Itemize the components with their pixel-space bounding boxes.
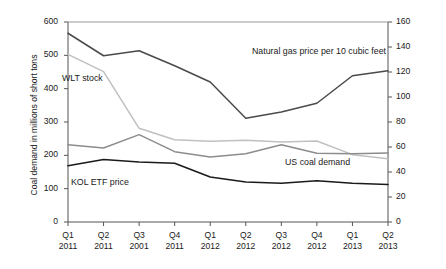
x-tick-year: 2012 bbox=[297, 241, 337, 252]
x-axis-tick-label: Q22011 bbox=[84, 230, 124, 252]
right-axis-tick-label: 140 bbox=[396, 41, 426, 51]
x-tick-year: 2011 bbox=[48, 241, 88, 252]
x-tick-quarter: Q2 bbox=[226, 230, 266, 241]
x-tick-quarter: Q2 bbox=[84, 230, 124, 241]
x-tick-year: 2011 bbox=[155, 241, 195, 252]
series-label-natural-gas-line1: Natural gas price per bbox=[252, 46, 334, 56]
x-axis-tick-label: Q32012 bbox=[261, 230, 301, 252]
x-axis-tick-label: Q32001 bbox=[119, 230, 159, 252]
left-axis-tick-label: 400 bbox=[28, 83, 58, 93]
x-axis-tick-label: Q22013 bbox=[368, 230, 408, 252]
right-axis-tick-label: 120 bbox=[396, 66, 426, 76]
right-axis-tick-label: 20 bbox=[396, 191, 426, 201]
x-axis-tick-label: Q42012 bbox=[297, 230, 337, 252]
x-tick-quarter: Q4 bbox=[155, 230, 195, 241]
chart-figure: Coal demand in millions of short tons Pr… bbox=[0, 0, 446, 269]
x-tick-year: 2012 bbox=[226, 241, 266, 252]
x-tick-year: 2013 bbox=[332, 241, 372, 252]
right-axis-ticks bbox=[388, 22, 392, 222]
right-axis-tick-label: 60 bbox=[396, 141, 426, 151]
right-axis-tick-label: 100 bbox=[396, 91, 426, 101]
x-tick-quarter: Q3 bbox=[119, 230, 159, 241]
x-tick-quarter: Q4 bbox=[297, 230, 337, 241]
left-axis-tick-label: 500 bbox=[28, 49, 58, 59]
left-axis-tick-label: 0 bbox=[28, 216, 58, 226]
left-axis-tick-label: 300 bbox=[28, 116, 58, 126]
x-axis-tick-label: Q42011 bbox=[155, 230, 195, 252]
x-tick-quarter: Q1 bbox=[190, 230, 230, 241]
right-axis-tick-label: 40 bbox=[396, 166, 426, 176]
x-tick-quarter: Q1 bbox=[332, 230, 372, 241]
x-axis-tick-label: Q12012 bbox=[190, 230, 230, 252]
x-tick-year: 2013 bbox=[368, 241, 408, 252]
series-label-natural-gas: Natural gas price per 10 cubic feet bbox=[252, 46, 386, 57]
x-tick-year: 2012 bbox=[261, 241, 301, 252]
x-tick-quarter: Q2 bbox=[368, 230, 408, 241]
chart-plot-area bbox=[0, 0, 446, 269]
series-label-kol-etf-price: KOL ETF price bbox=[71, 177, 129, 188]
right-axis-tick-label: 80 bbox=[396, 116, 426, 126]
right-axis-tick-label: 0 bbox=[396, 216, 426, 226]
x-axis-ticks bbox=[68, 222, 388, 226]
series-label-us-coal-demand: US coal demand bbox=[285, 157, 350, 168]
x-tick-year: 2001 bbox=[119, 241, 159, 252]
series-label-wlt-stock: WLT stock bbox=[62, 73, 103, 84]
x-tick-quarter: Q3 bbox=[261, 230, 301, 241]
left-axis-ticks bbox=[64, 22, 68, 222]
series-line-us-coal-demand bbox=[68, 135, 388, 157]
left-axis-tick-label: 200 bbox=[28, 149, 58, 159]
x-axis-tick-label: Q12013 bbox=[332, 230, 372, 252]
left-axis-tick-label: 100 bbox=[28, 183, 58, 193]
x-tick-quarter: Q1 bbox=[48, 230, 88, 241]
x-tick-year: 2011 bbox=[84, 241, 124, 252]
series-label-natural-gas-line2: 10 cubic feet bbox=[336, 46, 386, 56]
right-axis-tick-label: 160 bbox=[396, 16, 426, 26]
x-axis-tick-label: Q12011 bbox=[48, 230, 88, 252]
x-axis-tick-label: Q22012 bbox=[226, 230, 266, 252]
x-tick-year: 2012 bbox=[190, 241, 230, 252]
left-axis-tick-label: 600 bbox=[28, 16, 58, 26]
